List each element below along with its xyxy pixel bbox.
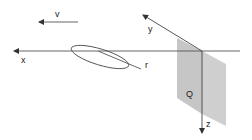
- orbit-ellipse: [69, 41, 131, 74]
- label-r: r: [145, 60, 148, 70]
- label-y: y: [148, 24, 153, 34]
- diagram-canvas: v x y r Q z: [0, 0, 252, 140]
- label-v: v: [55, 9, 60, 19]
- label-x: x: [21, 55, 26, 65]
- label-plane-q: Q: [186, 89, 193, 99]
- plane-q: [177, 38, 202, 114]
- label-z: z: [206, 119, 211, 129]
